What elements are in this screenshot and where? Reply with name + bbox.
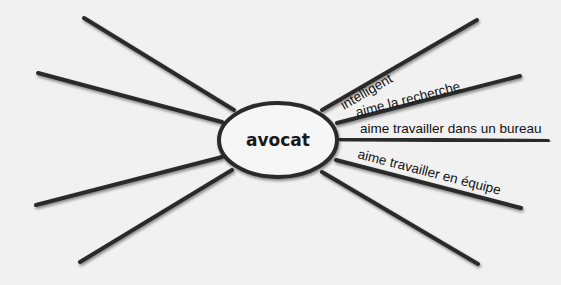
center-node-label: avocat [246,130,310,150]
spoke-line-l1 [84,18,234,110]
spoke-line-l2 [38,73,222,122]
spoke-line-r3 [340,139,548,141]
spoke-line-l5 [80,170,232,262]
spoke-line-l4 [36,157,222,205]
mind-map-diagram: avocat intelligent aime la recherche aim… [0,0,561,285]
spoke-labels-group: intelligent aime la recherche aime trava… [338,71,542,198]
spoke-label-aime-travailler-dans-un-bureau: aime travailler dans un bureau [360,121,542,136]
